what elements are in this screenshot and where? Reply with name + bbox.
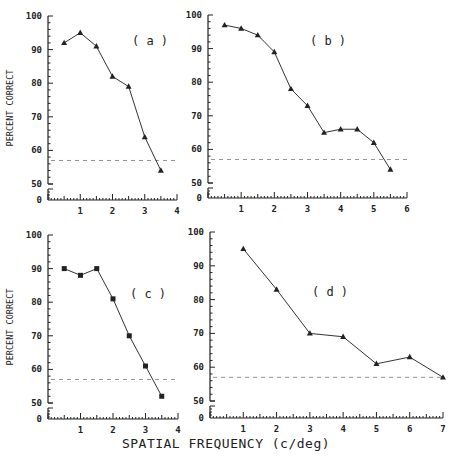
- triangle-marker: [77, 30, 83, 35]
- x-tick-label: 6: [407, 424, 412, 434]
- y-tick-label: 100: [26, 230, 42, 240]
- figure-canvas: 050607080901001234( a )PERCENT CORRECT05…: [0, 0, 452, 468]
- x-tick-label: 2: [274, 424, 279, 434]
- x-tick-label: 1: [78, 425, 83, 435]
- triangle-marker: [61, 40, 67, 45]
- y-tick-label: 50: [191, 178, 202, 188]
- y-tick-label: 90: [193, 261, 204, 271]
- data-series-line: [64, 33, 161, 171]
- panel-d: 050607080901001234567( d ): [188, 227, 446, 434]
- x-tick-label: 3: [305, 204, 310, 214]
- x-tick-label: 5: [371, 204, 376, 214]
- y-tick-label: 100: [188, 227, 204, 237]
- y-tick-label: 100: [26, 11, 42, 21]
- x-tick-label: 4: [338, 204, 344, 214]
- triangle-marker: [387, 166, 393, 171]
- y-tick-label: 50: [31, 398, 42, 408]
- x-tick-label: 1: [241, 424, 246, 434]
- x-tick-label: 1: [78, 206, 83, 216]
- y-tick-label: 0: [199, 413, 204, 423]
- x-tick-label: 3: [142, 206, 147, 216]
- panel-label: ( d ): [312, 285, 348, 299]
- y-tick-label: 60: [31, 364, 42, 374]
- y-tick-label: 60: [193, 362, 204, 372]
- panel-c: 050607080901001234( c )PERCENT CORRECT: [5, 230, 181, 435]
- square-marker: [94, 266, 99, 271]
- triangle-marker: [440, 374, 446, 379]
- square-marker: [111, 296, 116, 301]
- triangle-marker: [158, 167, 164, 172]
- square-marker: [62, 266, 67, 271]
- y-axis-title: PERCENT CORRECT: [5, 289, 15, 366]
- triangle-marker: [288, 86, 294, 91]
- y-tick-label: 60: [191, 144, 202, 154]
- y-tick-label: 50: [31, 179, 42, 189]
- panel-a: 050607080901001234( a )PERCENT CORRECT: [5, 11, 180, 216]
- y-axis-title: PERCENT CORRECT: [5, 70, 15, 147]
- y-tick-label: 80: [191, 77, 202, 87]
- y-tick-label: 70: [31, 112, 42, 122]
- y-tick-label: 80: [31, 78, 42, 88]
- x-tick-label: 4: [340, 424, 346, 434]
- x-tick-label: 5: [374, 424, 379, 434]
- triangle-marker: [222, 22, 228, 27]
- y-tick-label: 0: [197, 193, 202, 203]
- y-tick-label: 90: [31, 264, 42, 274]
- square-marker: [159, 394, 164, 399]
- y-tick-label: 100: [186, 10, 202, 20]
- y-tick-label: 90: [31, 45, 42, 55]
- triangle-marker: [126, 83, 132, 88]
- triangle-marker: [407, 354, 413, 359]
- square-marker: [143, 364, 148, 369]
- x-tick-label: 4: [174, 206, 180, 216]
- triangle-marker: [371, 139, 377, 144]
- x-tick-label: 6: [404, 204, 409, 214]
- y-tick-label: 0: [37, 414, 42, 424]
- x-tick-label: 3: [307, 424, 312, 434]
- panel-label: ( c ): [130, 287, 166, 301]
- square-marker: [127, 333, 132, 338]
- x-tick-label: 2: [110, 206, 115, 216]
- y-tick-label: 70: [191, 111, 202, 121]
- panel-label: ( b ): [310, 34, 346, 48]
- y-tick-label: 0: [37, 195, 42, 205]
- square-marker: [78, 273, 83, 278]
- triangle-marker: [142, 134, 148, 139]
- y-tick-label: 90: [191, 44, 202, 54]
- y-tick-label: 70: [193, 328, 204, 338]
- x-tick-label: 4: [175, 425, 181, 435]
- x-tick-label: 2: [110, 425, 115, 435]
- x-tick-label: 2: [272, 204, 277, 214]
- y-tick-label: 80: [193, 295, 204, 305]
- panel-b: 05060708090100123456( b ): [186, 10, 410, 214]
- data-series-line: [243, 249, 443, 377]
- x-axis-title: SPATIAL FREQUENCY (c/deg): [0, 436, 452, 451]
- x-tick-label: 1: [238, 204, 243, 214]
- y-tick-label: 60: [31, 145, 42, 155]
- triangle-marker: [240, 246, 246, 251]
- y-tick-label: 50: [193, 396, 204, 406]
- y-tick-label: 70: [31, 331, 42, 341]
- y-tick-label: 80: [31, 297, 42, 307]
- panel-label: ( a ): [132, 34, 168, 48]
- data-series-line: [225, 25, 391, 169]
- x-tick-label: 3: [143, 425, 148, 435]
- x-tick-label: 7: [440, 424, 445, 434]
- triangle-marker: [110, 73, 116, 78]
